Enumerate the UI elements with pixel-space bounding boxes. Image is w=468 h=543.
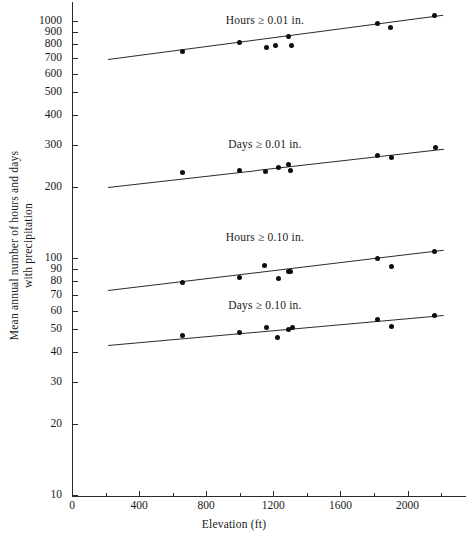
data-point — [375, 21, 380, 26]
y-tick-80 — [73, 281, 78, 282]
data-point — [375, 317, 380, 322]
data-point — [290, 325, 295, 330]
data-point — [432, 249, 437, 254]
x-tick-1200 — [273, 491, 274, 496]
data-point — [389, 264, 394, 269]
x-axis-title: Elevation (ft) — [0, 518, 468, 530]
x-tick-1600 — [340, 491, 341, 496]
y-tick-label: 700 — [0, 52, 68, 64]
data-point — [288, 168, 293, 173]
y-tick-400 — [73, 115, 78, 116]
y-tick-40 — [73, 352, 78, 353]
x-tick-800 — [206, 491, 207, 496]
x-tick-minor-600 — [173, 493, 174, 496]
data-point — [433, 145, 438, 150]
y-tick-200 — [73, 187, 78, 188]
x-axis-line — [72, 496, 466, 497]
y-tick-20 — [73, 424, 78, 425]
data-point — [388, 25, 393, 30]
y-tick-800 — [73, 44, 78, 45]
data-point — [262, 263, 267, 268]
y-tick-90 — [73, 269, 78, 270]
data-point — [375, 256, 380, 261]
x-tick-400 — [139, 491, 140, 496]
data-point — [276, 276, 281, 281]
y-tick-label: 20 — [0, 418, 68, 430]
data-point — [237, 330, 242, 335]
y-tick-label: 900 — [0, 26, 68, 38]
y-tick-500 — [73, 92, 78, 93]
x-tick-label: 800 — [176, 499, 236, 512]
data-point — [180, 170, 185, 175]
y-tick-50 — [73, 329, 78, 330]
x-tick-minor-1800 — [374, 493, 375, 496]
x-tick-minor-2200 — [441, 493, 442, 496]
series-annotation-label: Hours ≥ 0.10 in. — [226, 231, 304, 243]
data-point — [263, 169, 268, 174]
y-tick-70 — [73, 295, 78, 296]
data-point — [264, 45, 269, 50]
y-tick-label: 400 — [0, 109, 68, 121]
x-tick-label: 2000 — [378, 499, 438, 512]
regression-line — [108, 315, 444, 346]
x-tick-minor-200 — [106, 493, 107, 496]
series-annotation-label: Hours ≥ 0.01 in. — [226, 14, 304, 26]
y-tick-300 — [73, 145, 78, 146]
x-tick-0 — [72, 491, 73, 496]
regression-line — [108, 250, 444, 291]
data-point — [180, 280, 185, 285]
x-tick-label: 1600 — [310, 499, 370, 512]
x-tick-minor-1000 — [240, 493, 241, 496]
data-point — [286, 34, 291, 39]
data-point — [375, 153, 380, 158]
data-point — [275, 335, 280, 340]
x-tick-label: 0 — [42, 499, 102, 512]
data-point — [276, 165, 281, 170]
x-tick-label: 1200 — [243, 499, 303, 512]
y-tick-60 — [73, 311, 78, 312]
data-point — [237, 40, 242, 45]
series-annotation-label: Days ≥ 0.10 in. — [228, 299, 302, 311]
y-tick-10 — [73, 495, 78, 496]
data-point — [264, 325, 269, 330]
y-tick-label: 500 — [0, 86, 68, 98]
y-tick-600 — [73, 74, 78, 75]
y-tick-100 — [73, 258, 78, 259]
y-tick-label: 800 — [0, 38, 68, 50]
x-tick-2000 — [408, 491, 409, 496]
series-annotation-label: Days ≥ 0.01 in. — [228, 138, 302, 150]
data-point — [288, 269, 293, 274]
y-tick-1000 — [73, 21, 78, 22]
y-axis-title: Mean annual number of hours and days wit… — [8, 141, 35, 351]
precipitation-vs-elevation-chart: 1020304050607080901002003004005006007008… — [0, 0, 468, 543]
y-tick-label: 30 — [0, 376, 68, 388]
data-point — [432, 313, 437, 318]
x-tick-minor-1400 — [307, 493, 308, 496]
data-point — [289, 43, 294, 48]
data-point — [237, 275, 242, 280]
data-point — [389, 155, 394, 160]
x-tick-label: 400 — [109, 499, 169, 512]
data-point — [432, 13, 437, 18]
y-tick-700 — [73, 58, 78, 59]
y-tick-label: 1000 — [0, 15, 68, 27]
y-tick-label: 600 — [0, 68, 68, 80]
y-tick-900 — [73, 32, 78, 33]
data-point — [389, 324, 394, 329]
data-point — [273, 43, 278, 48]
data-point — [180, 49, 185, 54]
y-tick-30 — [73, 382, 78, 383]
